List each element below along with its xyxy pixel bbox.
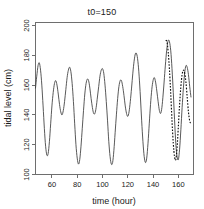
y-tick-label: 140 [22, 109, 31, 122]
forecast-tidal-series-line [166, 40, 191, 160]
y-axis-label: tidal level (cm) [3, 69, 13, 127]
x-axis-tick-marks [52, 175, 178, 179]
x-axis-label: time (hour) [92, 196, 136, 206]
y-tick-label: 200 [22, 19, 31, 32]
x-axis-tick-labels: 6080100120140160 [48, 180, 185, 189]
y-tick-label: 100 [22, 168, 31, 181]
y-axis-tick-marks [32, 25, 36, 174]
y-tick-label: 160 [22, 79, 31, 92]
observed-tidal-series-line [36, 40, 191, 165]
x-tick-label: 160 [172, 180, 185, 189]
y-axis-tick-labels: 100120140160180200 [22, 19, 31, 181]
chart-canvas: 100120140160180200 6080100120140160 time… [0, 0, 204, 209]
x-tick-label: 140 [147, 180, 160, 189]
y-tick-label: 180 [22, 49, 31, 62]
x-tick-label: 120 [122, 180, 135, 189]
x-tick-label: 60 [48, 180, 56, 189]
x-tick-label: 100 [96, 180, 109, 189]
x-tick-label: 80 [73, 180, 81, 189]
tidal-forecast-chart-figure: t0=150 100120140160180200 60801001201401… [0, 0, 204, 209]
y-tick-label: 120 [22, 138, 31, 151]
